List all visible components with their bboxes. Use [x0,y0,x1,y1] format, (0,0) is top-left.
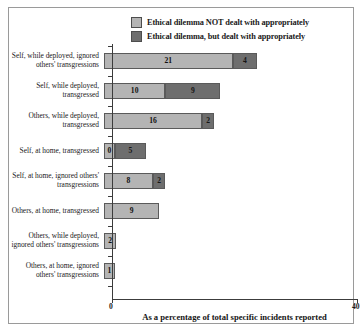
stacked-bar: 109 [104,83,220,99]
chart-row: Self, while deployed, transgressed109 [9,76,355,106]
stacked-bar: 214 [104,53,257,69]
bar-segment-not-dealt: 1 [104,263,115,279]
bar-segment-not-dealt: 21 [104,53,233,69]
bar-segment-dealt: 2 [202,113,214,129]
bar-value-label: 4 [243,57,247,65]
bar-segment-dealt: 9 [165,83,220,99]
x-tick-label-40: 40 [352,302,360,311]
dark-gray-swatch-icon [131,31,142,42]
category-label: Others, at home, ignored others' transgr… [9,262,104,279]
stacked-bar: 1 [104,263,115,279]
bar-zone: 9 [104,196,355,226]
chart-row: Others, at home, ignored others' transgr… [9,256,355,286]
plot-area: Self, while deployed, ignored others' tr… [9,44,355,299]
bar-zone: 162 [104,106,355,136]
chart-legend: Ethical dilemma NOT dealt with appropria… [131,16,346,44]
bar-zone: 2 [104,226,355,256]
stacked-bar: 05 [104,143,146,159]
y-tick [108,106,112,107]
chart-row: Others, while deployed, transgressed162 [9,106,355,136]
stacked-bar: 2 [104,233,116,249]
bar-segment-not-dealt: 0 [104,143,115,159]
bar-value-label: 5 [128,147,132,155]
bar-value-label: 10 [131,87,139,95]
bar-value-label: 21 [165,57,173,65]
bar-segment-dealt: 2 [153,173,165,189]
legend-label-not-dealt: Ethical dilemma NOT dealt with appropria… [147,18,309,27]
bar-value-label: 0 [108,147,112,155]
y-tick [108,256,112,257]
bar-zone: 1 [104,256,355,286]
x-axis-line [112,299,357,300]
y-tick [108,166,112,167]
bar-value-label: 9 [191,87,195,95]
category-label: Others, while deployed, transgressed [9,112,104,129]
category-label: Others, at home, transgressed [9,207,104,216]
bar-zone: 82 [104,166,355,196]
chart-row: Others, while deployed, ignored others' … [9,226,355,256]
y-tick [108,76,112,77]
x-axis-title: As a percentage of total specific incide… [112,312,357,322]
bar-segment-not-dealt: 10 [104,83,165,99]
bar-value-label: 1 [108,267,112,275]
bar-segment-not-dealt: 16 [104,113,202,129]
category-label: Self, while deployed, ignored others' tr… [9,52,104,69]
legend-label-dealt: Ethical dilemma, but dealt with appropri… [147,32,305,41]
stacked-bar: 162 [104,113,214,129]
y-tick [108,46,112,47]
bar-value-label: 8 [127,177,131,185]
bar-value-label: 2 [157,177,161,185]
y-tick [108,226,112,227]
chart-row: Self, while deployed, ignored others' tr… [9,46,355,76]
chart-figure: Ethical dilemma NOT dealt with appropria… [8,7,354,324]
bar-segment-dealt: 4 [233,53,258,69]
bar-zone: 05 [104,136,355,166]
category-label: Self, at home, ignored others' transgres… [9,172,104,189]
category-label: Self, at home, transgressed [9,147,104,156]
bar-segment-dealt: 5 [115,143,146,159]
legend-item-not-dealt: Ethical dilemma NOT dealt with appropria… [131,16,346,29]
bar-zone: 214 [104,46,355,76]
bar-value-label: 9 [130,207,134,215]
bar-value-label: 16 [149,117,157,125]
y-axis-line [112,44,113,300]
x-tick-label-0: 0 [109,302,113,311]
bar-value-label: 2 [206,117,210,125]
y-tick [108,196,112,197]
chart-row: Self, at home, transgressed05 [9,136,355,166]
y-tick [108,286,112,287]
legend-item-dealt: Ethical dilemma, but dealt with appropri… [131,30,346,43]
chart-row: Self, at home, ignored others' transgres… [9,166,355,196]
light-gray-swatch-icon [131,17,142,28]
y-tick [108,136,112,137]
chart-row: Others, at home, transgressed9 [9,196,355,226]
category-label: Self, while deployed, transgressed [9,82,104,99]
category-label: Others, while deployed, ignored others' … [9,232,104,249]
stacked-bar: 82 [104,173,165,189]
bar-segment-not-dealt: 2 [104,233,116,249]
bar-zone: 109 [104,76,355,106]
